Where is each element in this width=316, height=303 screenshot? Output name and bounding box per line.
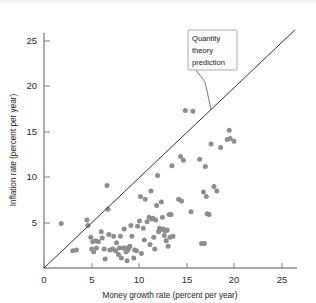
data-point: [59, 221, 64, 226]
data-points-layer: [59, 108, 237, 263]
x-tick-label-5: 5: [89, 274, 94, 285]
annotation-line-1: Quantity: [192, 34, 220, 43]
y-tick-label-25: 25: [26, 35, 37, 46]
data-point: [145, 219, 150, 224]
data-point: [118, 234, 123, 239]
data-point: [165, 227, 170, 232]
data-point: [204, 194, 209, 199]
data-point: [103, 256, 108, 261]
data-point: [189, 209, 194, 214]
data-point: [209, 141, 214, 146]
y-tick-label-20: 20: [26, 80, 37, 91]
data-point: [160, 215, 165, 220]
data-point: [155, 173, 160, 178]
data-point: [152, 246, 157, 251]
data-point: [127, 244, 132, 249]
data-point: [131, 256, 136, 261]
data-point: [129, 234, 134, 239]
data-point: [74, 247, 79, 252]
annotation-line-3: prediction: [192, 58, 225, 67]
x-tick-label-25: 25: [277, 274, 288, 285]
data-point: [100, 236, 105, 241]
data-point: [137, 218, 142, 223]
annotation-leader-line: [196, 70, 211, 110]
data-point: [218, 145, 223, 150]
data-point: [125, 258, 130, 263]
data-point: [84, 218, 89, 223]
data-point: [154, 203, 159, 208]
data-point: [162, 233, 167, 238]
y-tick-label-10: 10: [26, 171, 37, 182]
data-point: [102, 246, 107, 251]
figure-container: 0 5 10 15 20 25 5 10 15 20 25 Money grow…: [0, 0, 316, 303]
x-tick-label-20: 20: [229, 274, 240, 285]
quantity-theory-line: [44, 30, 295, 268]
data-point: [94, 246, 99, 251]
data-point: [148, 189, 153, 194]
data-point: [85, 223, 90, 228]
y-tick-label-15: 15: [26, 126, 37, 137]
y-tick-label-5: 5: [32, 217, 37, 228]
data-point: [170, 234, 175, 239]
data-point: [122, 227, 127, 232]
data-point: [159, 199, 164, 204]
x-tick-label-10: 10: [134, 274, 145, 285]
y-tick-marks: [44, 41, 50, 223]
x-tick-label-0: 0: [41, 274, 46, 285]
x-tick-label-15: 15: [182, 274, 193, 285]
data-point: [96, 239, 101, 244]
data-point: [143, 197, 148, 202]
data-point: [153, 218, 158, 223]
y-axis-title: Inflation rate (percent per year): [9, 94, 18, 207]
axis-lines: [44, 33, 297, 268]
data-point: [201, 189, 206, 194]
data-point: [183, 108, 188, 113]
data-point: [151, 235, 156, 240]
data-point: [203, 164, 208, 169]
x-axis-title: Money growth rate (percent per year): [102, 291, 237, 300]
data-point: [169, 163, 174, 168]
data-point: [231, 139, 236, 144]
data-point: [197, 157, 202, 162]
data-point: [181, 158, 186, 163]
data-point: [119, 256, 124, 261]
data-point: [211, 184, 216, 189]
data-point: [202, 241, 207, 246]
x-tick-marks: [44, 263, 282, 268]
data-point: [166, 244, 171, 249]
data-point: [179, 198, 184, 203]
data-point: [227, 128, 232, 133]
data-point: [139, 251, 144, 256]
data-point: [168, 212, 173, 217]
data-point: [138, 194, 143, 199]
data-point: [207, 212, 212, 217]
x-tick-labels: 0 5 10 15 20 25: [41, 274, 287, 285]
data-point: [106, 232, 111, 237]
scatter-plot: 0 5 10 15 20 25 5 10 15 20 25 Money grow…: [0, 0, 316, 303]
data-point: [214, 189, 219, 194]
data-point: [164, 238, 169, 243]
data-point: [114, 240, 119, 245]
data-point: [105, 183, 110, 188]
data-point: [111, 234, 116, 239]
data-point: [147, 242, 152, 247]
annotation-line-2: theory: [192, 46, 213, 55]
data-point: [142, 237, 147, 242]
y-tick-labels: 5 10 15 20 25: [26, 35, 37, 228]
data-point: [134, 248, 139, 253]
data-point: [128, 223, 133, 228]
data-point: [99, 229, 104, 234]
data-point: [88, 235, 93, 240]
data-point: [190, 109, 195, 114]
data-point: [135, 224, 140, 229]
data-point: [141, 226, 146, 231]
